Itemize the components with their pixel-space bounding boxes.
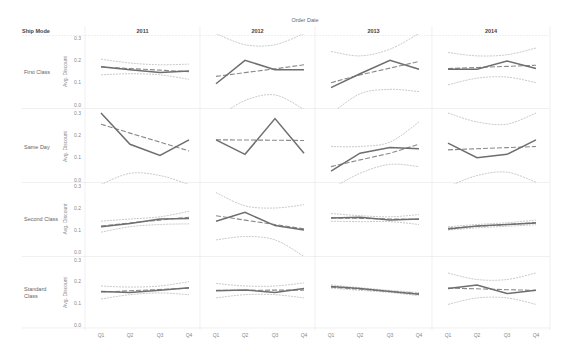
y-tick-label: 0.0 bbox=[74, 249, 81, 255]
chart-panels bbox=[101, 34, 536, 305]
x-tick-label: Q4 bbox=[301, 332, 308, 338]
y-tick-label: 0.3 bbox=[74, 110, 81, 116]
avg-discount-line[interactable] bbox=[101, 113, 189, 155]
confidence-band-upper bbox=[216, 283, 304, 286]
avg-discount-line[interactable] bbox=[216, 119, 304, 155]
confidence-band-upper bbox=[101, 282, 189, 287]
confidence-band-lower bbox=[331, 89, 419, 114]
x-tick-label: Q4 bbox=[186, 332, 193, 338]
panel-same-day-2014 bbox=[448, 113, 536, 187]
column-header-2014: 2014 bbox=[485, 28, 498, 34]
panel-second-class-2014 bbox=[448, 220, 536, 230]
panel-first-class-2013 bbox=[331, 34, 419, 114]
y-tick-label: 0.0 bbox=[74, 102, 81, 108]
y-tick-label: 0.1 bbox=[74, 154, 81, 160]
x-tick-label: Q3 bbox=[157, 332, 164, 338]
y-axis-title: Avg. Discount bbox=[62, 203, 68, 234]
confidence-band-lower bbox=[331, 164, 419, 189]
panel-second-class-2013 bbox=[331, 214, 419, 225]
avg-discount-line[interactable] bbox=[216, 60, 304, 83]
row-headers: First ClassSame DaySecond ClassStandardC… bbox=[24, 69, 58, 300]
x-tick-label: Q2 bbox=[474, 332, 481, 338]
x-tick-label: Q2 bbox=[242, 332, 249, 338]
confidence-band-upper bbox=[101, 59, 189, 65]
y-tick-label: 0.2 bbox=[74, 132, 81, 138]
confidence-band-lower bbox=[448, 297, 536, 304]
x-tick-label: Q2 bbox=[357, 332, 364, 338]
y-axis-title: Avg. Discount bbox=[62, 131, 68, 162]
confidence-band-lower bbox=[331, 221, 419, 224]
x-tick-label: Q1 bbox=[445, 332, 452, 338]
column-field-title: Order Date bbox=[291, 17, 318, 23]
panel-same-day-2012 bbox=[216, 86, 304, 193]
column-header-2013: 2013 bbox=[367, 28, 379, 34]
panel-dividers bbox=[22, 26, 550, 330]
y-axes: Avg. Discount0.00.10.20.3Avg. Discount0.… bbox=[62, 35, 81, 328]
x-tick-label: Q4 bbox=[416, 332, 423, 338]
column-header-2012: 2012 bbox=[251, 28, 263, 34]
confidence-band-upper bbox=[216, 86, 304, 91]
avg-discount-line[interactable] bbox=[331, 60, 419, 87]
confidence-band-lower bbox=[216, 294, 304, 298]
y-tick-label: 0.2 bbox=[74, 278, 81, 284]
y-tick-label: 0.1 bbox=[74, 300, 81, 306]
y-axis-title: Avg. Discount bbox=[62, 56, 68, 87]
y-tick-label: 0.0 bbox=[74, 322, 81, 328]
avg-discount-line[interactable] bbox=[448, 285, 536, 294]
y-axis-title: Avg. Discount bbox=[62, 277, 68, 308]
avg-discount-line[interactable] bbox=[448, 140, 536, 158]
confidence-band-upper bbox=[448, 48, 536, 56]
panel-first-class-2011 bbox=[101, 59, 189, 79]
x-tick-label: Q2 bbox=[127, 332, 134, 338]
y-tick-label: 0.2 bbox=[74, 57, 81, 63]
panel-second-class-2012 bbox=[216, 193, 304, 257]
confidence-band-upper bbox=[331, 34, 419, 56]
y-tick-label: 0.3 bbox=[74, 257, 81, 263]
y-tick-label: 0.3 bbox=[74, 183, 81, 189]
avg-discount-line[interactable] bbox=[101, 219, 189, 227]
confidence-band-upper bbox=[331, 122, 419, 147]
row-field-title: Ship Mode bbox=[22, 28, 50, 34]
confidence-band-lower bbox=[448, 172, 536, 187]
panel-same-day-2013 bbox=[331, 122, 419, 189]
x-tick-label: Q1 bbox=[328, 332, 335, 338]
row-header-standard-class: StandardClass bbox=[24, 286, 46, 299]
panel-first-class-2012 bbox=[216, 34, 304, 119]
confidence-band-upper bbox=[448, 273, 536, 280]
avg-discount-line[interactable] bbox=[331, 217, 419, 220]
trend-line bbox=[216, 140, 304, 141]
confidence-band-upper bbox=[331, 214, 419, 217]
confidence-band-lower bbox=[216, 191, 304, 194]
x-tick-label: Q1 bbox=[98, 332, 105, 338]
confidence-band-upper bbox=[216, 193, 304, 208]
panel-first-class-2014 bbox=[448, 48, 536, 85]
panel-standard-class-2011 bbox=[101, 282, 189, 299]
column-header-2011: 2011 bbox=[137, 28, 149, 34]
x-tick-label: Q3 bbox=[387, 332, 394, 338]
avg-discount-line[interactable] bbox=[216, 212, 304, 230]
avg-discount-line[interactable] bbox=[216, 289, 304, 293]
x-tick-label: Q4 bbox=[533, 332, 540, 338]
confidence-band-lower bbox=[216, 95, 304, 119]
panel-standard-class-2014 bbox=[448, 273, 536, 304]
confidence-band-upper bbox=[101, 95, 189, 102]
x-tick-label: Q1 bbox=[213, 332, 220, 338]
column-headers: 2011201220132014 bbox=[137, 28, 499, 34]
x-axis: Q1Q2Q3Q4Q1Q2Q3Q4Q1Q2Q3Q4Q1Q2Q3Q4 bbox=[98, 332, 540, 338]
row-header-first-class: First Class bbox=[24, 69, 50, 75]
x-tick-label: Q3 bbox=[504, 332, 511, 338]
confidence-band-upper bbox=[331, 285, 419, 293]
avg-discount-line[interactable] bbox=[331, 286, 419, 294]
trend-line bbox=[216, 65, 304, 77]
confidence-band-upper bbox=[448, 113, 536, 125]
panel-standard-class-2012 bbox=[216, 283, 304, 298]
y-tick-label: 0.1 bbox=[74, 227, 81, 233]
confidence-band-lower bbox=[448, 77, 536, 85]
confidence-band-lower bbox=[101, 293, 189, 299]
confidence-band-lower bbox=[216, 237, 304, 257]
trellis-line-chart: Order Date Ship Mode 2011201220132014 Fi… bbox=[0, 0, 574, 358]
y-tick-label: 0.1 bbox=[74, 79, 81, 85]
row-header-same-day: Same Day bbox=[24, 144, 50, 150]
confidence-band-lower bbox=[101, 74, 189, 80]
avg-discount-line[interactable] bbox=[448, 61, 536, 69]
